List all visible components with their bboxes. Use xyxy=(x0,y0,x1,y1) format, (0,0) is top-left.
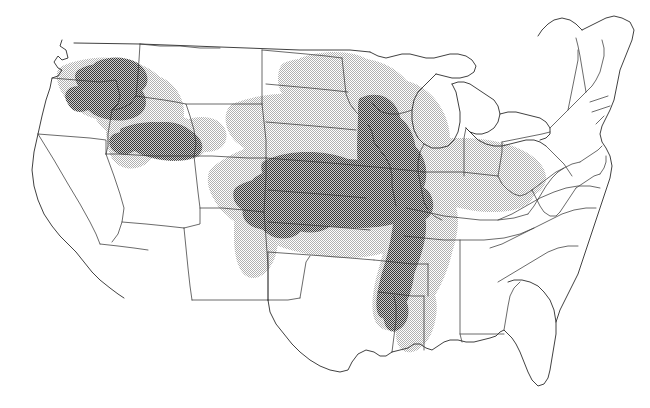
map-canvas xyxy=(0,0,650,408)
us-range-map xyxy=(0,0,650,408)
